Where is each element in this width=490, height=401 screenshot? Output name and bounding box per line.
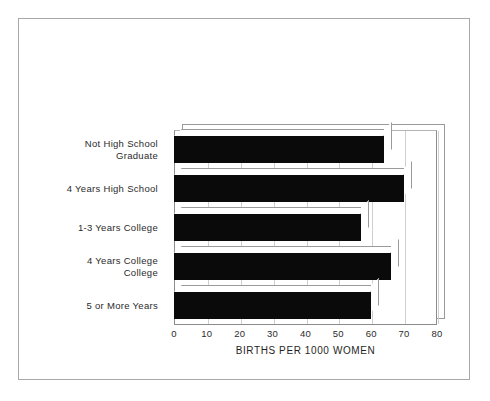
category-label-line: Graduate — [8, 150, 158, 162]
x-tick-label-60: 60 — [356, 328, 386, 339]
category-label-line: Not High School — [8, 138, 158, 150]
bar — [174, 292, 371, 319]
bar-top-face — [174, 168, 412, 175]
bar-side-face — [384, 122, 392, 156]
bar-front-face — [174, 292, 371, 319]
bar-row — [174, 247, 401, 286]
x-tick-label-80: 80 — [422, 328, 452, 339]
bar — [174, 253, 391, 280]
bar-side-face — [404, 161, 412, 195]
x-tick-label-50: 50 — [323, 328, 353, 339]
category-label-1: 4 Years High School — [8, 183, 158, 195]
bar-row — [174, 169, 414, 208]
chart-figure: Not High SchoolGraduate4 Years High Scho… — [0, 0, 490, 401]
category-label-line: 4 Years College — [8, 255, 158, 267]
category-label-2: 1-3 Years College — [8, 222, 158, 234]
category-label-line: College — [8, 267, 158, 279]
category-label-line: 4 Years High School — [8, 183, 158, 195]
x-tick-label-70: 70 — [389, 328, 419, 339]
x-tick-label-20: 20 — [225, 328, 255, 339]
x-tick-label-10: 10 — [192, 328, 222, 339]
bar-top-face — [174, 207, 369, 214]
bar-row — [174, 286, 381, 325]
bar-top-face — [174, 129, 392, 136]
bar-side-face — [371, 278, 379, 312]
bar-row — [174, 130, 394, 169]
category-label-line: 5 or More Years — [8, 300, 158, 312]
bar-row — [174, 208, 371, 247]
bar-side-face — [391, 239, 399, 273]
bar — [174, 214, 361, 241]
bar-front-face — [174, 175, 404, 202]
bar-side-face — [361, 200, 369, 234]
x-axis-ticks: 01020304050607080 — [174, 328, 445, 342]
x-tick-label-0: 0 — [159, 328, 189, 339]
category-label-3: 4 Years CollegeCollege — [8, 255, 158, 278]
bar-top-face — [174, 285, 379, 292]
bar — [174, 175, 404, 202]
bars-container — [174, 130, 445, 325]
x-tick-label-30: 30 — [258, 328, 288, 339]
bar — [174, 136, 384, 163]
bar-top-face — [174, 246, 399, 253]
x-tick-label-40: 40 — [291, 328, 321, 339]
bar-front-face — [174, 136, 384, 163]
x-axis-label: BIRTHS PER 1000 WOMEN — [174, 345, 437, 356]
category-label-0: Not High SchoolGraduate — [8, 138, 158, 161]
bar-front-face — [174, 253, 391, 280]
category-label-line: 1-3 Years College — [8, 222, 158, 234]
bar-front-face — [174, 214, 361, 241]
category-labels: Not High SchoolGraduate4 Years High Scho… — [0, 130, 168, 325]
category-label-4: 5 or More Years — [8, 300, 158, 312]
